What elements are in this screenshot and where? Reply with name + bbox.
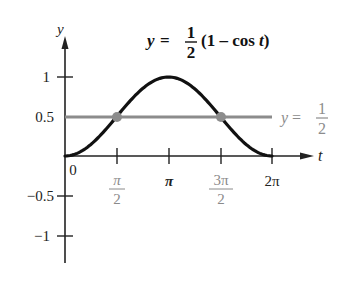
- y-tick-label-1: 1: [43, 69, 51, 85]
- x-tick-label-3pi-over-2-num: 3π: [213, 172, 229, 188]
- label-frac-num: 1: [318, 100, 326, 117]
- title-frac-den: 2: [187, 43, 196, 62]
- title-equals: =: [160, 31, 170, 50]
- x-axis: [65, 153, 314, 160]
- y-axis: [62, 36, 69, 263]
- x-tick-label-2pi: 2π: [264, 173, 280, 189]
- svg-text:y =: y =: [279, 109, 301, 127]
- title-frac-num: 1: [187, 23, 196, 42]
- intersection-point-2: [216, 112, 226, 122]
- origin-label: 0: [69, 162, 77, 178]
- y-tick-label-neg-0.5: −0.5: [27, 188, 54, 204]
- x-axis-label: t: [318, 147, 323, 164]
- x-ticks: 0 π 2 π 3π 2 2π: [69, 148, 280, 207]
- y-tick-label-0.5: 0.5: [35, 109, 54, 125]
- title-lhs-y: y: [145, 31, 155, 50]
- x-axis-arrow-icon: [300, 153, 314, 160]
- intersection-point-1: [112, 112, 122, 122]
- x-tick-label-pi: π: [165, 173, 174, 189]
- y-axis-label: y: [55, 21, 64, 37]
- series-label-y-half: y = 1 2: [279, 100, 328, 137]
- label-frac-den: 2: [318, 120, 326, 137]
- chart-title: y = 1 2 (1 – cos t): [145, 23, 269, 62]
- x-tick-label-pi-over-2-den: 2: [113, 191, 121, 207]
- y-axis-arrow-icon: [62, 36, 69, 49]
- x-tick-label-pi-over-2-num: π: [113, 172, 121, 188]
- x-tick-label-3pi-over-2-den: 2: [217, 191, 225, 207]
- chart: y t 1 0.5 −0.5 −1 0 π 2 π 3π 2 2π: [0, 0, 349, 288]
- title-rhs: (1 – cos t): [201, 31, 269, 50]
- y-tick-label-neg-1: −1: [34, 228, 50, 244]
